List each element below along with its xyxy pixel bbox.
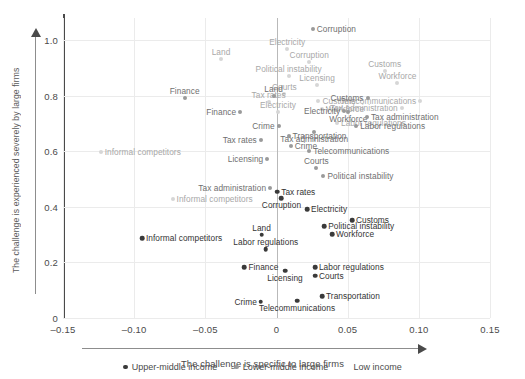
data-point-label: Land (252, 224, 271, 232)
gridline-horizontal (63, 318, 490, 319)
data-point-label: Political instability (327, 172, 393, 180)
y-tick-label: 0 (53, 313, 58, 324)
x-tick-label: 0.15 (480, 324, 499, 335)
gridline-vertical (134, 18, 135, 318)
x-tick-label: –0.15 (51, 324, 76, 335)
y-tick-label: 1.0 (44, 35, 58, 46)
data-point-label: Customs (368, 60, 401, 68)
y-axis-arrow (35, 36, 36, 294)
data-point-label: Corruption (262, 201, 301, 209)
data-point-label: Tax administration (198, 184, 266, 192)
data-point-label: Land (264, 85, 283, 93)
data-point (313, 265, 318, 270)
data-point-label: Land (212, 48, 231, 56)
data-point (321, 174, 325, 178)
data-point-label: Electricity (311, 205, 347, 213)
data-point-label: Telecommunications (259, 304, 335, 312)
y-axis-ticks: 00.20.40.60.81.0 (0, 0, 58, 379)
data-point-label: Licensing (267, 274, 303, 282)
data-point-label: Telecommunications (313, 147, 389, 155)
data-point (314, 166, 318, 170)
data-point (313, 273, 318, 278)
data-point-label: Crime (252, 122, 274, 130)
data-point-label: Tax administration (280, 135, 348, 143)
data-point-label: Tax rates (223, 136, 257, 144)
data-point (264, 247, 269, 252)
data-point (322, 224, 327, 229)
y-tick-label: 0.8 (44, 90, 58, 101)
x-tick-label: 0 (274, 324, 279, 335)
data-point-label: Licensing (228, 155, 264, 163)
data-point-label: Crime (234, 298, 256, 306)
legend-marker-icon (123, 365, 127, 369)
data-point (320, 294, 325, 299)
data-point (311, 27, 315, 31)
x-tick-label: –0.05 (193, 324, 218, 335)
data-point-label: Corruption (317, 25, 356, 33)
data-point-label: Courts (304, 157, 329, 165)
data-point (272, 94, 276, 98)
data-point (275, 189, 280, 194)
data-point-label: Workforce (378, 72, 416, 80)
data-point (277, 124, 281, 128)
data-point (265, 157, 269, 161)
data-point-label: Informal competitors (146, 234, 222, 242)
data-point-label: Labor regulations (233, 238, 298, 246)
data-point-label: Informal competitors (105, 148, 181, 156)
data-point (289, 144, 293, 148)
legend-marker-icon (345, 365, 349, 369)
data-point-label: Customs (330, 94, 363, 102)
data-point-label: Finance (248, 263, 278, 271)
data-point (400, 106, 404, 110)
legend-label: Lower-middle income (243, 362, 329, 372)
data-point (259, 138, 263, 142)
plot-area: Informal competitorsInformal competitors… (63, 18, 490, 318)
data-point (140, 236, 145, 241)
x-tick-label: –0.10 (122, 324, 147, 335)
data-point (285, 47, 289, 51)
y-tick-label: 0.6 (44, 146, 58, 157)
data-point (268, 186, 272, 190)
data-point-label: Tax administration (330, 104, 398, 112)
data-point (307, 149, 311, 153)
legend-item[interactable]: Low income (345, 362, 401, 372)
y-tick-label: 0.4 (44, 201, 58, 212)
scatter-chart: The challenge is experienced severely by… (0, 0, 525, 379)
chart-legend: Upper-middle incomeLower-middle incomeLo… (0, 362, 525, 372)
x-tick-label: 0.05 (338, 324, 357, 335)
legend-item[interactable]: Lower-middle income (234, 362, 328, 372)
data-point-label: Courts (319, 272, 344, 280)
gridline-vertical (490, 18, 491, 318)
gridline-vertical (63, 18, 64, 318)
data-point-label: Finance (170, 87, 200, 95)
data-point-label: Licensing (299, 74, 335, 82)
data-point (171, 197, 175, 201)
legend-label: Low income (354, 362, 402, 372)
data-point (287, 74, 291, 78)
data-point (315, 83, 319, 87)
data-point (99, 150, 103, 154)
legend-label: Upper-middle income (132, 362, 218, 372)
gridline-vertical (205, 18, 206, 318)
y-tick-label: 0.2 (44, 257, 58, 268)
data-point-label: Electricity (269, 38, 305, 46)
data-point-label: Finance (206, 108, 236, 116)
data-point (219, 57, 223, 61)
data-point-label: Electricity (260, 101, 296, 109)
data-point-label: Tax rates (281, 187, 315, 195)
data-point (316, 99, 320, 103)
data-point (242, 265, 247, 270)
x-tick-label: 0.10 (409, 324, 428, 335)
data-point (354, 124, 358, 128)
data-point (276, 110, 280, 114)
data-point (305, 207, 310, 212)
data-point (183, 96, 187, 100)
legend-item[interactable]: Upper-middle income (123, 362, 217, 372)
data-point-label: Transportation (326, 292, 380, 300)
data-point-label: Informal competitors (177, 195, 253, 203)
data-point (365, 115, 369, 119)
data-point (330, 232, 335, 237)
data-point-label: Political instability (256, 65, 322, 73)
gridline-vertical (348, 18, 349, 318)
x-axis-arrow (82, 348, 418, 349)
